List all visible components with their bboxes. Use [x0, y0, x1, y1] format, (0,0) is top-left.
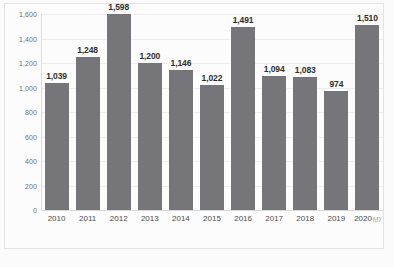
bar-value-label: 1,491	[233, 15, 254, 25]
y-axis-tick-label: 600	[3, 133, 37, 140]
bar-group: 1,200	[134, 14, 165, 210]
x-axis-tick-label: 2018	[296, 214, 314, 223]
bar[interactable]	[45, 83, 69, 210]
bar[interactable]	[231, 27, 255, 210]
bar-chart: 02004006008001,0001,2001,4001,600 1,0391…	[0, 0, 394, 267]
bar[interactable]	[169, 70, 193, 210]
x-axis-tick-label: 2012	[110, 214, 128, 223]
bar[interactable]	[293, 77, 317, 210]
bar-value-label: 1,510	[357, 13, 378, 23]
bar[interactable]	[324, 91, 348, 210]
bar-value-label: 1,248	[77, 45, 98, 55]
bar-value-label: 1,039	[46, 71, 67, 81]
y-axis-tick-label: 400	[3, 158, 37, 165]
y-axis-tick-labels: 02004006008001,0001,2001,4001,600	[0, 14, 37, 210]
x-axis-tick-label: 2017	[265, 214, 283, 223]
bar-group: 1,146	[165, 14, 196, 210]
bar-value-label: 974	[329, 79, 343, 89]
x-axis-tick-label: 2020(년)	[354, 214, 381, 223]
gridline	[41, 210, 383, 211]
bar-value-label: 1,146	[171, 58, 192, 68]
bar[interactable]	[355, 25, 379, 210]
x-axis-tick-label: 2015	[203, 214, 221, 223]
y-axis-tick-label: 200	[3, 182, 37, 189]
bar-value-label: 1,083	[295, 65, 316, 75]
y-axis-tick-label: 0	[3, 207, 37, 214]
x-axis-tick-label: 2014	[172, 214, 190, 223]
bar-value-label: 1,094	[264, 64, 285, 74]
bar[interactable]	[76, 57, 100, 210]
bar-group: 1,039	[41, 14, 72, 210]
bar[interactable]	[200, 85, 224, 210]
y-axis-tick-label: 1,200	[3, 60, 37, 67]
x-axis-tick-label: 2010	[48, 214, 66, 223]
bar-group: 1,510	[352, 14, 383, 210]
bar-group: 974	[321, 14, 352, 210]
bar-group: 1,094	[259, 14, 290, 210]
bar-value-label: 1,022	[202, 73, 223, 83]
bar[interactable]	[138, 63, 162, 210]
bars-layer: 1,0391,2481,5981,2001,1461,0221,4911,094…	[41, 14, 383, 210]
x-axis-tick-label: 2013	[141, 214, 159, 223]
y-axis-tick-label: 1,400	[3, 35, 37, 42]
bar[interactable]	[107, 14, 131, 210]
y-axis-tick-label: 1,000	[3, 84, 37, 91]
bar-group: 1,598	[103, 14, 134, 210]
bar-value-label: 1,200	[139, 51, 160, 61]
bar[interactable]	[262, 76, 286, 210]
x-axis-tick-label: 2016	[234, 214, 252, 223]
y-axis-tick-label: 800	[3, 109, 37, 116]
x-axis-tick-labels: 2010201120122013201420152016201720182019…	[41, 214, 383, 232]
bar-value-label: 1,598	[108, 2, 129, 12]
bar-group: 1,022	[196, 14, 227, 210]
x-axis-unit-note: (년)	[372, 216, 380, 222]
x-axis-tick-label: 2019	[327, 214, 345, 223]
bar-group: 1,083	[290, 14, 321, 210]
bar-group: 1,491	[228, 14, 259, 210]
bar-group: 1,248	[72, 14, 103, 210]
y-axis-tick-label: 1,600	[3, 11, 37, 18]
x-axis-tick-label: 2011	[79, 214, 96, 223]
